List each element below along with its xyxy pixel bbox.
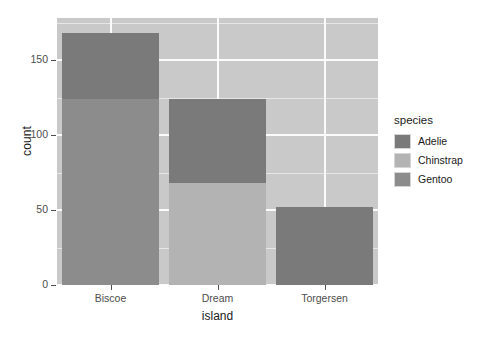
y-axis-tick-label: 150 bbox=[14, 53, 48, 65]
y-axis-tick-mark bbox=[51, 60, 56, 61]
stacked-bar-chart: count 050100150 BiscoeDreamTorgersen isl… bbox=[0, 0, 479, 340]
bar-stack[interactable] bbox=[169, 99, 265, 285]
bar-segment[interactable] bbox=[169, 183, 265, 285]
legend-color-swatch bbox=[395, 154, 410, 167]
legend-item-label: Adelie bbox=[418, 135, 447, 147]
y-axis-tick-mark bbox=[51, 210, 56, 211]
legend-item-label: Chinstrap bbox=[418, 154, 463, 166]
y-axis-tick-label: 50 bbox=[14, 203, 48, 215]
y-axis-tick-label: 0 bbox=[14, 278, 48, 290]
legend-item-label: Gentoo bbox=[418, 173, 452, 185]
x-axis-tick-mark bbox=[111, 285, 112, 290]
x-axis-tick-label: Torgersen bbox=[280, 292, 370, 304]
x-axis-tick-label: Dream bbox=[173, 292, 263, 304]
y-axis-tick-labels: 050100150 bbox=[12, 0, 48, 340]
legend-color-swatch bbox=[395, 135, 410, 148]
y-axis-tick-label: 100 bbox=[14, 128, 48, 140]
legend-key-background bbox=[394, 172, 411, 187]
y-axis-tick-mark bbox=[51, 285, 56, 286]
x-axis-title: island bbox=[57, 309, 378, 323]
plot-panel bbox=[57, 18, 378, 285]
legend-key-background bbox=[394, 153, 411, 168]
legend-title: species bbox=[394, 114, 463, 126]
legend-item[interactable]: Gentoo bbox=[394, 170, 463, 188]
legend-item[interactable]: Adelie bbox=[394, 132, 463, 150]
legend: species AdelieChinstrapGentoo bbox=[394, 114, 463, 189]
bar-stack[interactable] bbox=[276, 207, 372, 285]
legend-color-swatch bbox=[395, 173, 410, 186]
x-axis-tick-mark bbox=[218, 285, 219, 290]
legend-items: AdelieChinstrapGentoo bbox=[394, 132, 463, 188]
y-axis-tick-mark bbox=[51, 135, 56, 136]
x-axis-tick-mark bbox=[325, 285, 326, 290]
legend-item[interactable]: Chinstrap bbox=[394, 151, 463, 169]
bar-segment[interactable] bbox=[169, 99, 265, 183]
bar-segment[interactable] bbox=[62, 33, 158, 99]
bar-segment[interactable] bbox=[276, 207, 372, 285]
bar-segment[interactable] bbox=[62, 99, 158, 285]
legend-key-background bbox=[394, 134, 411, 149]
bar-stack[interactable] bbox=[62, 33, 158, 285]
x-axis-tick-label: Biscoe bbox=[66, 292, 156, 304]
